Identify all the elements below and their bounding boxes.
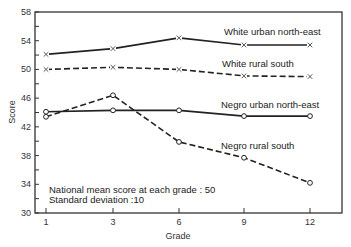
circle-marker-icon — [242, 155, 247, 160]
label-negro-rural-south: Negro rural south — [221, 140, 294, 151]
x-marker-icon — [241, 42, 247, 48]
y-axis: 3034384246505458 — [21, 7, 39, 218]
plot-frame — [35, 12, 342, 213]
circle-marker-icon — [242, 114, 247, 119]
x-tick-label: 9 — [241, 217, 246, 227]
y-tick-label: 54 — [21, 36, 31, 46]
x-axis: 136912 — [43, 208, 315, 227]
x-tick-label: 3 — [110, 217, 115, 227]
x-marker-icon — [307, 74, 313, 80]
x-marker-icon — [176, 35, 182, 41]
label-white-rural-south: White rural south — [222, 58, 294, 69]
y-tick-label: 50 — [21, 64, 31, 74]
x-marker-icon — [241, 73, 247, 79]
x-marker-icon — [110, 64, 116, 70]
circle-marker-icon — [44, 109, 49, 114]
x-marker-icon — [307, 42, 313, 48]
y-tick-label: 30 — [21, 208, 31, 218]
x-tick-label: 1 — [43, 217, 48, 227]
label-negro-urban-north-east: Negro urban north-east — [221, 99, 320, 110]
circle-marker-icon — [111, 108, 116, 113]
circle-marker-icon — [111, 93, 116, 98]
y-tick-label: 38 — [21, 151, 31, 161]
series-white-urban-north-east — [43, 35, 313, 58]
line-chart: 3034384246505458 136912 White urban nort… — [0, 0, 351, 247]
circle-marker-icon — [177, 140, 182, 145]
y-tick-label: 34 — [21, 179, 31, 189]
x-marker-icon — [43, 51, 49, 57]
y-tick-label: 46 — [21, 93, 31, 103]
x-axis-title: Grade — [165, 231, 190, 241]
annotation-note: National mean score at each grade : 50 S… — [49, 184, 215, 205]
x-tick-label: 12 — [305, 217, 315, 227]
y-axis-title: Score — [7, 100, 17, 124]
circle-marker-icon — [308, 180, 313, 185]
x-marker-icon — [43, 66, 49, 72]
note-standard-deviation: Standard deviation :10 — [49, 194, 144, 205]
label-white-urban-north-east: White urban north-east — [224, 26, 321, 37]
x-marker-icon — [110, 46, 116, 52]
y-tick-label: 58 — [21, 7, 31, 17]
x-marker-icon — [176, 66, 182, 72]
y-tick-label: 42 — [21, 122, 31, 132]
circle-marker-icon — [44, 114, 49, 119]
x-tick-label: 6 — [176, 217, 181, 227]
circle-marker-icon — [177, 108, 182, 113]
circle-marker-icon — [308, 114, 313, 119]
